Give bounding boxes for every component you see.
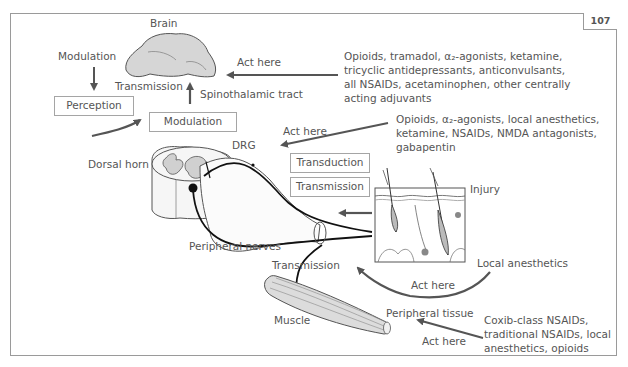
spinal-drug-list: Opioids, α₂-agonists, local anesthetics,…	[396, 112, 599, 154]
dorsal-horn-label: Dorsal horn	[88, 158, 149, 171]
act-here-spinal-label: Act here	[283, 125, 327, 138]
brain-label: Brain	[150, 17, 178, 30]
drg-label: DRG	[232, 139, 256, 152]
modulation-top-label: Modulation	[58, 50, 116, 63]
curved-arrow-to-modulation	[92, 120, 140, 136]
peripheral-nerves-label: Peripheral nerves	[189, 240, 281, 253]
central-drug-list: Opioids, tramadol, α₂-agonists, ketamine…	[344, 49, 571, 105]
act-here-central-label: Act here	[237, 56, 281, 69]
local-anesthetics-label: Local anesthetics	[477, 257, 568, 270]
muscle-label: Muscle	[274, 314, 310, 327]
skin-injury-icon	[375, 168, 465, 262]
injury-label: Injury	[470, 183, 500, 196]
modulation-box: Modulation	[149, 112, 237, 132]
act-here-peripheral-label: Act here	[422, 335, 466, 348]
peripheral-drug-list: Coxib-class NSAIDs, traditional NSAIDs, …	[484, 313, 611, 355]
transduction-box: Transduction	[290, 153, 370, 173]
spinothalamic-tract-label: Spinothalamic tract	[200, 88, 303, 101]
transmission-muscle-label: Transmission	[272, 259, 340, 272]
peripheral-tissue-label: Peripheral tissue	[386, 307, 474, 320]
transmission-box: Transmission	[290, 177, 370, 197]
act-here-local-label: Act here	[411, 279, 455, 292]
brain-icon	[126, 34, 216, 77]
transmission-brain-label: Transmission	[115, 80, 183, 93]
perception-box: Perception	[54, 96, 134, 116]
